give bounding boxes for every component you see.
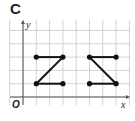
figure-point xyxy=(34,55,39,60)
figure-point xyxy=(34,81,39,86)
x-axis-label: x xyxy=(120,99,126,110)
origin-label: O xyxy=(12,99,20,110)
figure-point xyxy=(87,81,92,86)
figure-point xyxy=(114,81,119,86)
coordinate-grid: xyO xyxy=(0,0,135,121)
figure-point xyxy=(114,55,119,60)
y-axis-label: y xyxy=(25,19,31,30)
y-axis-arrow-icon xyxy=(21,20,25,24)
figure-point xyxy=(60,81,65,86)
figure-point xyxy=(60,55,65,60)
figure-point xyxy=(87,55,92,60)
